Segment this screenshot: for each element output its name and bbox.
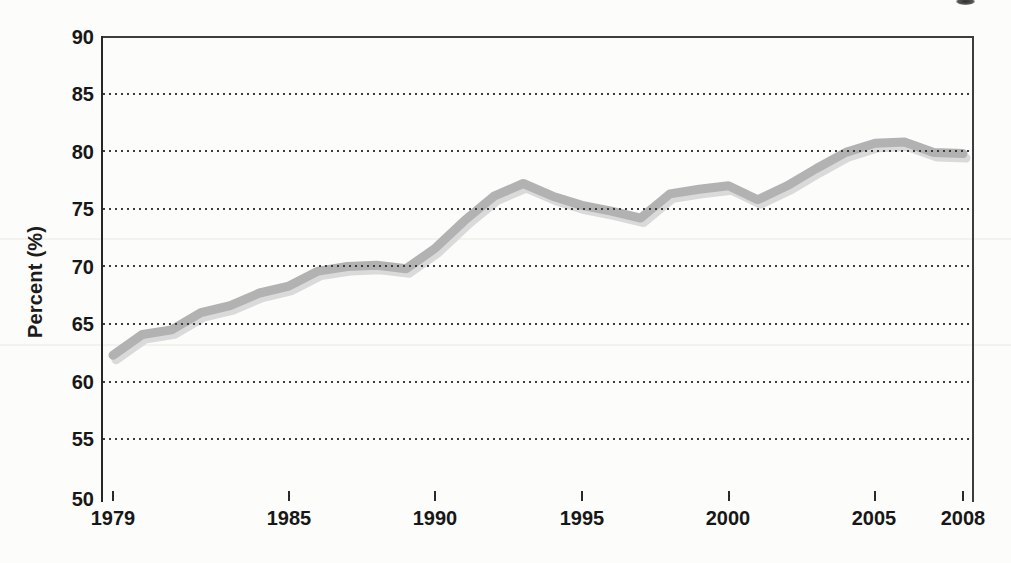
x-axis-tick bbox=[434, 491, 436, 501]
x-axis-tick bbox=[962, 491, 964, 501]
gridline-85 bbox=[103, 93, 972, 95]
gridline-60 bbox=[103, 381, 972, 383]
plot-border-left bbox=[101, 36, 103, 502]
x-axis-tick-label: 2000 bbox=[693, 507, 763, 530]
gridline-70 bbox=[103, 265, 972, 267]
x-axis-tick bbox=[288, 491, 290, 501]
gridline-80 bbox=[103, 150, 972, 152]
x-axis-tick bbox=[728, 491, 730, 501]
gridline-65 bbox=[103, 323, 972, 325]
x-axis-tick bbox=[874, 491, 876, 501]
cropped-text-fragment bbox=[956, 0, 975, 5]
y-axis-tick-label: 60 bbox=[50, 370, 94, 394]
y-axis-tick-label: 75 bbox=[50, 197, 94, 221]
x-axis-tick-label: 1995 bbox=[547, 507, 617, 530]
y-axis-tick-label: 85 bbox=[50, 82, 94, 106]
y-axis-tick-label: 90 bbox=[50, 25, 94, 49]
y-axis-tick-label: 65 bbox=[50, 312, 94, 336]
y-axis-tick-label: 70 bbox=[50, 255, 94, 279]
x-axis-tick bbox=[581, 491, 583, 501]
y-axis-tick-label: 80 bbox=[50, 140, 94, 164]
plot-border-right bbox=[972, 36, 974, 502]
x-axis-tick bbox=[112, 491, 114, 501]
gridline-75 bbox=[103, 208, 972, 210]
y-axis-title: Percent (%) bbox=[24, 226, 47, 338]
gridline-55 bbox=[103, 438, 972, 440]
x-axis-tick-label: 1979 bbox=[78, 507, 148, 530]
y-axis-tick-label: 55 bbox=[50, 427, 94, 451]
x-axis-tick-label: 1985 bbox=[254, 507, 324, 530]
chart-page: Percent (%) 90 85 80 75 70 65 60 55 50 1… bbox=[0, 0, 1011, 563]
x-axis-tick-label: 2005 bbox=[839, 507, 909, 530]
x-axis-tick-label: 2008 bbox=[928, 507, 998, 530]
plot-border-top bbox=[101, 36, 974, 38]
x-axis-tick-label: 1990 bbox=[400, 507, 470, 530]
